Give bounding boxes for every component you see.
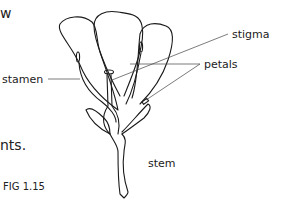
label-stem: stem — [148, 158, 176, 169]
right-stamen-filament — [126, 53, 141, 104]
stem — [110, 134, 128, 198]
label-petals: petals — [204, 59, 238, 70]
stigma-leader-line — [112, 34, 228, 80]
label-stamen: stamen — [2, 74, 43, 85]
left-petal — [59, 17, 118, 110]
label-stigma: stigma — [232, 29, 270, 40]
petals-leader-line-2 — [146, 64, 200, 100]
right-sepal — [122, 104, 150, 134]
